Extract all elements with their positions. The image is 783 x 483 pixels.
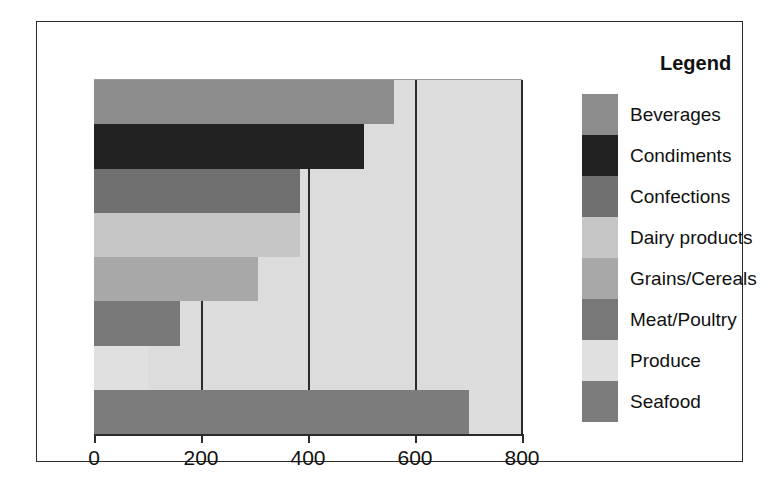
legend-swatch-beverages bbox=[582, 94, 618, 135]
bar-produce bbox=[94, 346, 148, 390]
legend-label-meat-poultry: Meat/Poultry bbox=[630, 299, 737, 340]
legend-label-dairy-products: Dairy products bbox=[630, 217, 753, 258]
x-axis-label-800: 800 bbox=[492, 445, 552, 471]
legend-swatch-seafood bbox=[582, 381, 618, 422]
legend-swatch-confections bbox=[582, 176, 618, 217]
bar-seafood bbox=[94, 390, 469, 434]
legend-swatch-produce bbox=[582, 340, 618, 381]
legend-label-condiments: Condiments bbox=[630, 135, 731, 176]
plot-area-right-border bbox=[521, 80, 523, 434]
x-axis-label-0: 0 bbox=[64, 445, 124, 471]
gridline-600 bbox=[415, 80, 417, 434]
legend-label-grains-cereals: Grains/Cereals bbox=[630, 258, 757, 299]
x-axis-tick-600 bbox=[415, 434, 417, 443]
bar-meat-poultry bbox=[94, 301, 180, 345]
x-axis-label-400: 400 bbox=[278, 445, 338, 471]
chart-container: 0200400600800 Legend BeveragesCondiments… bbox=[0, 0, 783, 483]
bar-dairy-products bbox=[94, 213, 300, 257]
legend-swatch-meat-poultry bbox=[582, 299, 618, 340]
chart-frame: 0200400600800 Legend BeveragesCondiments… bbox=[36, 21, 743, 462]
legend-label-produce: Produce bbox=[630, 340, 701, 381]
legend-swatch-dairy-products bbox=[582, 217, 618, 258]
legend-label-beverages: Beverages bbox=[630, 94, 721, 135]
legend-swatch-grains-cereals bbox=[582, 258, 618, 299]
legend-swatch-condiments bbox=[582, 135, 618, 176]
legend-label-confections: Confections bbox=[630, 176, 730, 217]
x-axis-tick-800 bbox=[522, 434, 524, 443]
x-axis-label-600: 600 bbox=[385, 445, 445, 471]
x-axis-tick-200 bbox=[201, 434, 203, 443]
legend-label-seafood: Seafood bbox=[630, 381, 701, 422]
x-axis-tick-0 bbox=[94, 434, 96, 443]
x-axis-tick-400 bbox=[308, 434, 310, 443]
bar-confections bbox=[94, 169, 300, 213]
bar-beverages bbox=[94, 80, 394, 124]
bar-condiments bbox=[94, 124, 364, 168]
bar-grains-cereals bbox=[94, 257, 258, 301]
legend-title: Legend bbox=[660, 52, 731, 75]
x-axis-label-200: 200 bbox=[171, 445, 231, 471]
